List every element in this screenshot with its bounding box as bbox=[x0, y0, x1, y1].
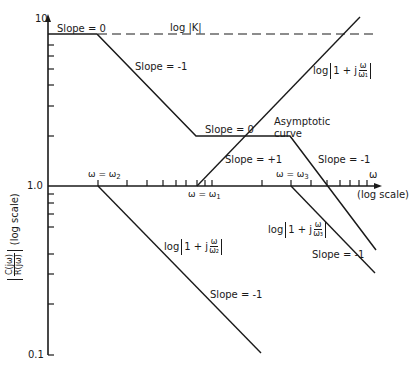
x-axis-scale-label: (log scale) bbox=[357, 190, 409, 200]
label-slope-0-mid: Slope = 0 bbox=[205, 125, 254, 135]
label-slope-minus1-w3: Slope = -1 bbox=[312, 250, 364, 260]
label-slope-minus1-right: Slope = -1 bbox=[318, 155, 370, 165]
label-slope-plus1: Slope = +1 bbox=[225, 155, 282, 165]
y-tick-10: 10 bbox=[35, 14, 48, 24]
label-w2-term: log1 + jωω₂ bbox=[164, 238, 224, 255]
y-tick-0-1: 0.1 bbox=[28, 350, 44, 360]
marker-w3: ω = ω3 bbox=[276, 170, 309, 181]
y-axis-label: C(jω)R(jω) (log scale) bbox=[6, 193, 23, 282]
label-w1-term: log1 + jωω₁ bbox=[313, 62, 373, 79]
label-slope-minus1-w2: Slope = -1 bbox=[210, 290, 262, 300]
marker-w2: ω = ω2 bbox=[88, 170, 121, 181]
bode-diagram-canvas bbox=[0, 0, 414, 370]
y-axis-ticks-lower bbox=[48, 194, 54, 304]
label-slope-minus1-upper: Slope = -1 bbox=[135, 62, 187, 72]
label-slope-0-top: Slope = 0 bbox=[57, 24, 106, 34]
x-axis-symbol: ω bbox=[369, 170, 377, 180]
label-w3-term: log1 + jωω₃ bbox=[268, 221, 328, 238]
label-asymptotic-curve: Asymptotic curve bbox=[274, 116, 330, 140]
y-axis-ticks-upper bbox=[48, 45, 54, 136]
marker-w1: ω = ω1 bbox=[188, 190, 221, 201]
w2-term-line bbox=[98, 186, 261, 353]
y-tick-1: 1.0 bbox=[27, 181, 43, 191]
label-log-k: log |K| bbox=[170, 23, 202, 33]
